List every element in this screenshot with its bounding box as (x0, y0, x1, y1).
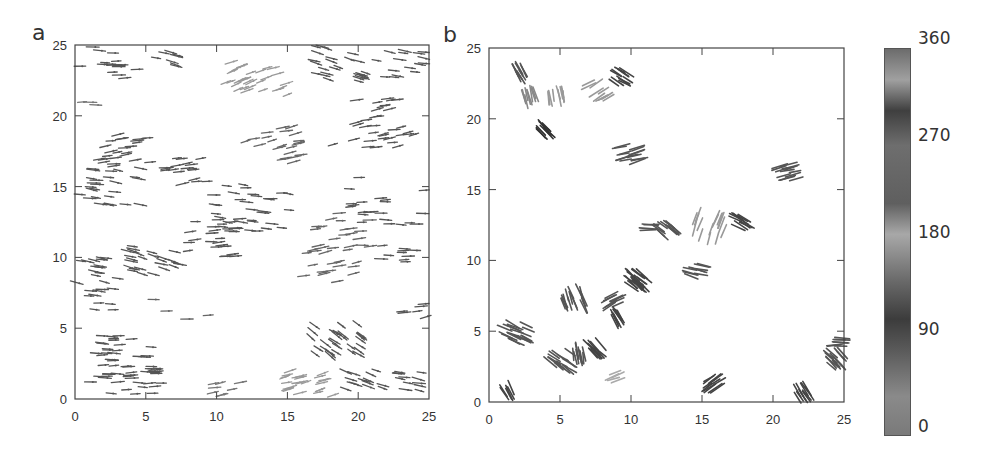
x-tick-label: 20 (351, 409, 365, 424)
x-tick-label: 0 (71, 409, 78, 424)
panel-label-b: b (443, 22, 457, 47)
plot-a-svg: 05101520250510152025 (75, 45, 429, 399)
colorbar-tick-0: 0 (918, 418, 929, 435)
x-tick-label: 25 (422, 409, 436, 424)
x-tick-label: 10 (624, 412, 638, 427)
panel-label-a: a (32, 20, 45, 45)
x-tick-label: 15 (695, 412, 709, 427)
colorbar-tick-180: 180 (918, 224, 950, 241)
y-tick-label: 10 (53, 250, 67, 265)
colorbar-tick-270: 270 (918, 127, 950, 144)
x-tick-label: 10 (209, 409, 223, 424)
y-tick-label: 15 (53, 180, 67, 195)
x-tick-label: 0 (485, 412, 492, 427)
y-tick-label: 20 (53, 109, 67, 124)
x-tick-label: 5 (556, 412, 563, 427)
x-tick-label: 20 (766, 412, 780, 427)
plot-a: 05101520250510152025 (75, 45, 429, 403)
colorbar-tick-360: 360 (918, 30, 950, 47)
vector-field (498, 62, 850, 403)
y-tick-label: 25 (467, 41, 481, 56)
vector-field (70, 45, 431, 397)
y-tick-label: 20 (467, 112, 481, 127)
y-tick-label: 15 (467, 183, 481, 198)
y-tick-label: 10 (467, 253, 481, 268)
y-tick-label: 0 (60, 392, 67, 407)
y-tick-label: 25 (53, 38, 67, 53)
plot-b: 05101520250510152025 (489, 48, 844, 406)
x-tick-label: 15 (280, 409, 294, 424)
y-tick-label: 0 (474, 395, 481, 410)
y-tick-label: 5 (474, 324, 481, 339)
x-tick-label: 5 (142, 409, 149, 424)
x-tick-label: 25 (837, 412, 851, 427)
y-tick-label: 5 (60, 321, 67, 336)
colorbar (884, 48, 911, 436)
colorbar-tick-90: 90 (918, 321, 940, 338)
plot-b-svg: 05101520250510152025 (489, 48, 844, 402)
